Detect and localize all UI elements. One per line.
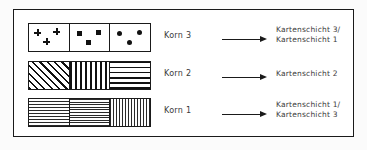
right-arrow-icon: [222, 73, 268, 81]
square-icon: [96, 30, 101, 35]
square-icon: [77, 31, 82, 36]
figure-frame: Korn 3 Kartenschicht 3/ Kartenschicht 1 …: [13, 9, 354, 137]
legend-figure: Korn 3 Kartenschicht 3/ Kartenschicht 1 …: [0, 0, 367, 150]
swatch-cell-fine-stipple-dots: [70, 99, 111, 126]
destination-label: Kartenschicht 3/ Kartenschicht 1: [276, 25, 354, 44]
korn-label: Korn 1: [164, 106, 224, 115]
square-icon: [86, 40, 91, 45]
destination-line: Kartenschicht 1: [276, 35, 354, 45]
destination-label: Kartenschicht 2: [276, 69, 354, 79]
swatch-cell-vertical-lines: [70, 62, 111, 89]
swatch-cell-plus-symbols: [29, 24, 70, 51]
arrow-head: [260, 36, 267, 42]
korn-label: Korn 3: [164, 31, 224, 40]
plus-icon: [34, 29, 41, 36]
swatch-cell-square-symbols: [70, 24, 111, 51]
legend-row: Korn 2 Kartenschicht 2: [14, 58, 355, 94]
circle-icon: [137, 30, 142, 35]
arrow-head: [260, 74, 267, 80]
korn-label: Korn 2: [164, 69, 224, 78]
pattern-swatch: [28, 23, 151, 52]
destination-line: Kartenschicht 1/: [276, 100, 354, 110]
swatch-cell-diagonal-hatch: [29, 62, 70, 89]
arrow-shaft: [222, 114, 262, 115]
pattern-swatch: [28, 98, 151, 127]
swatch-cell-fine-horizontal-dashes: [29, 99, 70, 126]
swatch-cell-horizontal-lines: [110, 62, 150, 89]
circle-icon: [127, 40, 132, 45]
destination-line: Kartenschicht 3/: [276, 25, 354, 35]
legend-row: Korn 1 Kartenschicht 1/ Kartenschicht 3: [14, 95, 355, 131]
destination-line: Kartenschicht 2: [276, 69, 354, 79]
swatch-cell-circle-symbols: [110, 24, 150, 51]
pattern-swatch: [28, 61, 151, 90]
arrow-shaft: [222, 39, 262, 40]
plus-icon: [43, 38, 50, 45]
right-arrow-icon: [222, 35, 268, 43]
swatch-cell-fine-vertical-dashes: [110, 99, 150, 126]
legend-row: Korn 3 Kartenschicht 3/ Kartenschicht 1: [14, 20, 355, 56]
plus-icon: [53, 28, 60, 35]
arrow-head: [260, 111, 267, 117]
right-arrow-icon: [222, 110, 268, 118]
circle-icon: [117, 31, 122, 36]
destination-label: Kartenschicht 1/ Kartenschicht 3: [276, 100, 354, 119]
destination-line: Kartenschicht 3: [276, 110, 354, 120]
arrow-shaft: [222, 77, 262, 78]
